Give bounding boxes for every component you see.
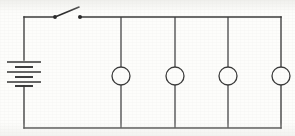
branch-2 xyxy=(166,17,184,128)
branch-3 xyxy=(219,17,237,128)
lamp-3 xyxy=(219,67,237,85)
switch-terminal-contact xyxy=(78,15,82,19)
lamp-1 xyxy=(112,67,130,85)
branch-4 xyxy=(272,67,290,85)
circuit-diagram xyxy=(0,0,295,136)
switch-blade[interactable] xyxy=(55,7,79,17)
battery-symbol xyxy=(7,62,41,86)
lamp-2 xyxy=(166,67,184,85)
circuit-rails xyxy=(24,17,281,128)
circuit-svg xyxy=(0,0,295,136)
lamp-4 xyxy=(272,67,290,85)
knife-switch[interactable] xyxy=(53,7,82,19)
branch-1 xyxy=(112,17,130,128)
